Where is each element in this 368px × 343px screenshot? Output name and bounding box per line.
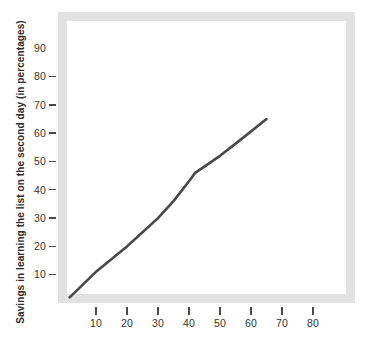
- y-axis-tick-label: 50: [34, 156, 46, 167]
- y-axis-tick-mark: [49, 48, 56, 49]
- y-axis-tick-mark: [49, 104, 56, 105]
- y-axis-tick: 10: [34, 268, 58, 282]
- y-axis-tick-label: 40: [34, 185, 46, 196]
- y-axis: 102030405060708090: [0, 0, 58, 343]
- y-axis-tick-mark: [49, 76, 56, 77]
- chart-figure: Savings in learning the list on the seco…: [0, 0, 368, 343]
- x-axis-tick: 30: [145, 303, 171, 329]
- x-axis-tick-label: 80: [300, 318, 326, 329]
- x-axis-tick: 70: [269, 303, 295, 329]
- y-axis-tick: 90: [34, 41, 58, 55]
- y-axis-tick-mark: [49, 161, 56, 162]
- y-axis-tick-label: 10: [34, 269, 46, 280]
- y-axis-tick-mark: [49, 189, 56, 190]
- x-axis-tick-mark: [188, 307, 189, 315]
- x-axis-tick: 80: [300, 303, 326, 329]
- y-axis-tick-label: 20: [34, 241, 46, 252]
- x-axis-tick-mark: [126, 307, 127, 315]
- y-axis-tick: 30: [34, 211, 58, 225]
- x-axis-tick-mark: [95, 307, 96, 315]
- x-axis-tick: 40: [176, 303, 202, 329]
- y-axis-tick: 60: [34, 126, 58, 140]
- x-axis-tick-label: 30: [145, 318, 171, 329]
- y-axis-tick: 70: [34, 98, 58, 112]
- y-axis-tick-label: 90: [34, 43, 46, 54]
- x-axis-tick-mark: [219, 307, 220, 315]
- x-axis-tick: 60: [238, 303, 264, 329]
- x-axis-tick-label: 70: [269, 318, 295, 329]
- x-axis-tick-label: 50: [207, 318, 233, 329]
- x-axis-tick: 10: [83, 303, 109, 329]
- x-axis-tick-label: 60: [238, 318, 264, 329]
- x-axis: 1020304050607080: [0, 303, 368, 343]
- y-axis-tick-mark: [49, 217, 56, 218]
- x-axis-tick-mark: [281, 307, 282, 315]
- y-axis-tick: 80: [34, 70, 58, 84]
- x-axis-tick: 20: [114, 303, 140, 329]
- y-axis-tick-label: 70: [34, 100, 46, 111]
- y-axis-tick-mark: [49, 246, 56, 247]
- y-axis-tick-mark: [49, 274, 56, 275]
- x-axis-tick-mark: [250, 307, 251, 315]
- x-axis-tick: 50: [207, 303, 233, 329]
- x-axis-tick-mark: [312, 307, 313, 315]
- x-axis-tick-mark: [157, 307, 158, 315]
- plot-frame: [58, 12, 355, 303]
- y-axis-tick: 20: [34, 239, 58, 253]
- x-axis-tick-label: 20: [114, 318, 140, 329]
- y-axis-tick-mark: [49, 132, 56, 133]
- y-axis-tick: 40: [34, 183, 58, 197]
- x-axis-tick-label: 10: [83, 318, 109, 329]
- y-axis-tick-label: 80: [34, 71, 46, 82]
- x-axis-tick-label: 40: [176, 318, 202, 329]
- y-axis-tick: 50: [34, 155, 58, 169]
- y-axis-tick-label: 30: [34, 213, 46, 224]
- y-axis-tick-label: 60: [34, 128, 46, 139]
